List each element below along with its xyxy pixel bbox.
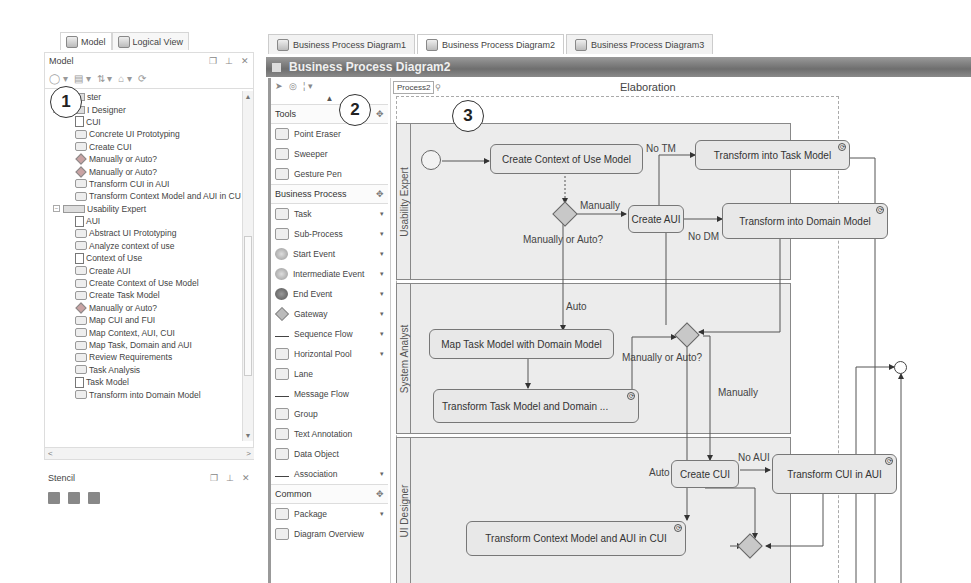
dropdown-arrow-icon[interactable]: ▾ <box>380 510 384 518</box>
restore-icon[interactable]: ❐ <box>209 56 217 66</box>
stencil-grid-icon[interactable] <box>88 492 100 504</box>
end-event[interactable] <box>894 361 907 374</box>
palette-item-diagram-overview[interactable]: Diagram Overview <box>271 524 388 544</box>
palette-item-text-annotation[interactable]: Text Annotation <box>271 424 388 444</box>
scroll-up-icon[interactable]: ▲ <box>244 92 252 101</box>
pin-icon[interactable]: ⊥ <box>226 473 234 483</box>
tree-item[interactable]: Task Model <box>45 376 243 388</box>
palette-item-sweeper[interactable]: Sweeper <box>271 144 388 164</box>
diagram-icon[interactable]: ▤ ▾ <box>74 73 91 84</box>
tree-item[interactable]: Create Context of Use Model <box>45 277 243 289</box>
open-stencil-icon[interactable] <box>48 492 60 504</box>
vertical-scrollbar[interactable]: ▲ ▼ <box>242 91 253 441</box>
task-create-context-of-use-model[interactable]: Create Context of Use Model <box>490 144 643 174</box>
dropdown-arrow-icon[interactable]: ▾ <box>380 230 384 238</box>
palette-item-end-event[interactable]: End Event▾ <box>271 284 388 304</box>
breadcrumb[interactable]: Process2 <box>393 81 434 94</box>
task-transform-into-task-model[interactable]: Transform into Task Model⟳ <box>695 140 850 170</box>
task-map-task-model-with-domain-model[interactable]: Map Task Model with Domain Model <box>429 329 614 359</box>
horizontal-scrollbar[interactable]: <> <box>45 447 254 459</box>
close-icon[interactable]: ✕ <box>241 56 249 66</box>
new-element-icon[interactable]: ◯ ▾ <box>49 73 68 84</box>
tab-business-process-diagram1[interactable]: Business Process Diagram1 <box>268 34 415 54</box>
lane-ui-designer[interactable]: UI Designer <box>396 437 791 583</box>
dropdown-arrow-icon[interactable]: ▾ <box>380 250 384 258</box>
tree-item[interactable]: Map Task, Domain and AUI <box>45 339 243 351</box>
palette-item-association[interactable]: Association▾ <box>271 464 388 484</box>
tree-item[interactable]: Map Context, AUI, CUI <box>45 326 243 338</box>
collapse-group-icon[interactable]: ✥ <box>376 489 384 499</box>
tree-item[interactable]: Transform CUI in AUI <box>45 178 243 190</box>
tab-logical-view[interactable]: Logical View <box>112 32 189 50</box>
dropdown-arrow-icon[interactable]: ▾ <box>380 270 384 278</box>
tree-item[interactable]: Concrete UI Prototyping <box>45 128 243 140</box>
collapse-group-icon[interactable]: ✥ <box>376 109 384 119</box>
select-icon[interactable]: ➤ <box>275 81 283 91</box>
palette-item-lane[interactable]: Lane <box>271 364 388 384</box>
dropdown-arrow-icon[interactable]: ▾ <box>380 290 384 298</box>
tree-item[interactable]: CUI <box>45 116 243 128</box>
tree-item[interactable]: Abstract UI Prototyping <box>45 227 243 239</box>
palette-item-package[interactable]: Package▾ <box>271 504 388 524</box>
scroll-left-icon[interactable]: < <box>48 449 53 458</box>
collapse-group-icon[interactable]: ✥ <box>376 189 384 199</box>
tab-business-process-diagram3[interactable]: Business Process Diagram3 <box>566 34 713 54</box>
tree-item[interactable]: Context of Use <box>45 252 243 264</box>
up-icon[interactable]: ⌂ ▾ <box>118 73 132 84</box>
tree-item[interactable]: Analyze context of use <box>45 240 243 252</box>
tree-item[interactable]: AUI <box>45 215 243 227</box>
palette-item-sequence-flow[interactable]: Sequence Flow▾ <box>271 324 388 344</box>
tree-item[interactable]: Manually or Auto? <box>45 302 243 314</box>
palette-item-gesture-pen[interactable]: Gesture Pen <box>271 164 388 184</box>
palette-item-start-event[interactable]: Start Event▾ <box>271 244 388 264</box>
task-transform-task-model-and-domain[interactable]: Transform Task Model and Domain ...⟳ <box>433 389 639 423</box>
tree-item[interactable]: Transform Context Model and AUI in CU <box>45 190 243 202</box>
dropdown-arrow-icon[interactable]: ▾ <box>380 310 384 318</box>
task-transform-cui-in-aui[interactable]: Transform CUI in AUI⟳ <box>772 454 897 494</box>
palette-item-sub-process[interactable]: Sub-Process▾ <box>271 224 388 244</box>
dropdown-arrow-icon[interactable]: ▾ <box>380 350 384 358</box>
palette-group-common[interactable]: Common✥ <box>271 484 388 504</box>
palette-item-horizontal-pool[interactable]: Horizontal Pool▾ <box>271 344 388 364</box>
zoom-icon[interactable]: ⚲ <box>435 83 441 92</box>
palette-item-group[interactable]: Group <box>271 404 388 424</box>
tree-item[interactable]: Transform into Domain Model <box>45 388 243 400</box>
expand-toggle-icon[interactable]: − <box>53 205 60 212</box>
pin-icon[interactable]: ⊥ <box>225 56 233 66</box>
lasso-icon[interactable]: ◎ <box>289 81 297 91</box>
palette-item-data-object[interactable]: Data Object <box>271 444 388 464</box>
save-stencil-icon[interactable] <box>68 492 80 504</box>
sort-icon[interactable]: ⇅ ▾ <box>97 73 113 84</box>
tree-item[interactable]: Create CUI <box>45 141 243 153</box>
tab-model[interactable]: Model <box>60 32 112 50</box>
restore-icon[interactable]: ❐ <box>210 473 218 483</box>
tree-item[interactable]: Manually or Auto? <box>45 153 243 165</box>
dropdown-arrow-icon[interactable]: ▾ <box>380 470 384 478</box>
close-icon[interactable]: ✕ <box>242 473 250 483</box>
task-transform-context-model-and-aui-in-cui[interactable]: Transform Context Model and AUI in CUI⟳ <box>466 521 686 556</box>
palette-item-message-flow[interactable]: Message Flow <box>271 384 388 404</box>
palette-item-point-eraser[interactable]: Point Eraser <box>271 124 388 144</box>
tree-item[interactable]: Map CUI and FUI <box>45 314 243 326</box>
tab-business-process-diagram2[interactable]: Business Process Diagram2 <box>417 34 564 54</box>
palette-item-task[interactable]: Task▾ <box>271 204 388 224</box>
tree-item[interactable]: Create Task Model <box>45 289 243 301</box>
tree-item[interactable]: −Usability Expert <box>45 203 243 215</box>
task-transform-into-domain-model[interactable]: Transform into Domain Model⟳ <box>722 203 888 239</box>
start-event[interactable] <box>421 150 441 170</box>
scroll-right-icon[interactable]: > <box>246 449 251 458</box>
refresh-icon[interactable]: ⟳ <box>138 73 146 84</box>
palette-group-business-process[interactable]: Business Process✥ <box>271 184 388 204</box>
dropdown-arrow-icon[interactable]: ▾ <box>380 330 384 338</box>
more-icon[interactable]: ¦ ▾ <box>303 81 313 91</box>
dropdown-arrow-icon[interactable]: ▾ <box>380 210 384 218</box>
scroll-down-icon[interactable]: ▼ <box>244 431 252 440</box>
tree-item[interactable]: Review Requirements <box>45 351 243 363</box>
tree-item[interactable]: Manually or Auto? <box>45 165 243 177</box>
tree-item[interactable]: Task Analysis <box>45 364 243 376</box>
palette-item-intermediate-event[interactable]: Intermediate Event▾ <box>271 264 388 284</box>
palette-item-gateway[interactable]: Gateway▾ <box>271 304 388 324</box>
palette-scroll-up-icon[interactable]: ▲ <box>271 94 388 104</box>
task-create-aui[interactable]: Create AUI <box>628 205 684 233</box>
task-create-cui[interactable]: Create CUI <box>671 460 739 488</box>
